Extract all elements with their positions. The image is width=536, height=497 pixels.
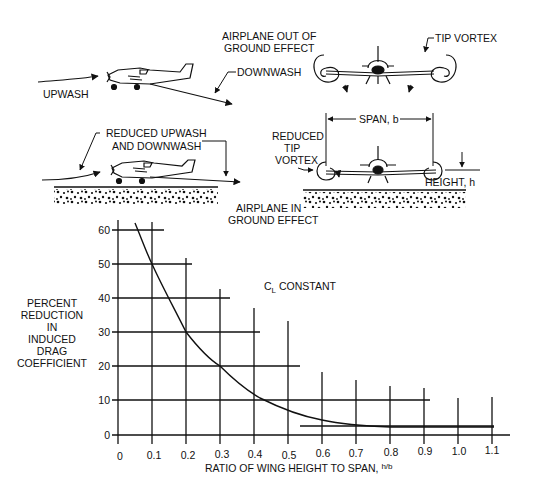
svg-text:0.3: 0.3 xyxy=(215,448,230,460)
reduced-leader-right xyxy=(202,141,226,176)
airplane-front-icon xyxy=(314,46,456,92)
svg-text:0.8: 0.8 xyxy=(384,446,399,458)
reduced-leader-left xyxy=(80,133,100,170)
svg-text:40: 40 xyxy=(98,292,110,304)
svg-text:PERCENT: PERCENT xyxy=(27,297,78,309)
reduced-tip-label-3: VORTEX xyxy=(275,154,318,166)
svg-text:0.1: 0.1 xyxy=(147,449,162,461)
drag-reduction-chart: PERCENT REDUCTION IN INDUCED DRAG COEFFI… xyxy=(17,220,510,474)
front-view-out-of-ground-effect: AIRPLANE OUT OF GROUND EFFECT TIP VORTEX xyxy=(222,30,497,92)
ground-gravel-left xyxy=(54,189,218,205)
reduced-upwash-label-2: AND DOWNWASH xyxy=(112,140,201,152)
ground-gravel-right xyxy=(303,192,466,208)
reduced-upwash-label-1: REDUCED UPWASH xyxy=(106,127,207,139)
in-ground-effect-title-1: AIRPLANE IN xyxy=(236,202,301,214)
svg-text:1.0: 1.0 xyxy=(452,445,467,457)
side-view-in-ground-effect: REDUCED UPWASH AND DOWNWASH xyxy=(42,127,240,205)
cl-constant-annotation: CL CONSTANT xyxy=(264,280,337,295)
span-label: SPAN, b xyxy=(359,113,399,125)
height-label: HEIGHT, h xyxy=(425,176,475,188)
svg-text:0.5: 0.5 xyxy=(282,449,297,461)
reduced-downwash-arrow xyxy=(150,177,240,182)
svg-text:0: 0 xyxy=(117,450,123,462)
x-tick-labels: 0 0.1 0.2 0.3 0.4 0.5 0.6 0.7 0.8 0.9 1.… xyxy=(117,444,499,462)
upwash-arrow xyxy=(38,76,98,82)
svg-text:0.9: 0.9 xyxy=(418,445,433,457)
svg-text:REDUCTION: REDUCTION xyxy=(21,309,83,321)
svg-text:10: 10 xyxy=(98,394,110,406)
downwash-arrow xyxy=(150,84,232,104)
svg-text:COEFFICIENT: COEFFICIENT xyxy=(17,357,88,369)
drag-reduction-curve xyxy=(135,223,494,427)
downwash-label: DOWNWASH xyxy=(237,66,301,78)
svg-text:0.6: 0.6 xyxy=(316,447,331,459)
reduced-upwash-arrow xyxy=(42,172,100,180)
y-tick-labels: 0 10 20 30 40 50 60 xyxy=(98,224,110,441)
svg-text:DRAG: DRAG xyxy=(37,345,67,357)
svg-text:INDUCED: INDUCED xyxy=(28,333,76,345)
svg-text:0.4: 0.4 xyxy=(248,448,263,460)
svg-text:20: 20 xyxy=(98,360,110,372)
ground-effect-figure: UPWASH DOWNWASH AIRPLANE OUT OF GROUND E… xyxy=(0,0,536,497)
grid-horizontal xyxy=(112,230,510,435)
downwash-leader xyxy=(215,72,236,93)
x-axis-label: RATIO OF WING HEIGHT TO SPAN, h/b xyxy=(205,462,393,474)
svg-text:0.7: 0.7 xyxy=(349,447,364,459)
y-axis-label: PERCENT REDUCTION IN INDUCED DRAG COEFFI… xyxy=(17,297,88,369)
svg-text:30: 30 xyxy=(98,326,110,338)
tip-vortex-label: TIP VORTEX xyxy=(435,32,497,44)
out-of-ground-effect-title-1: AIRPLANE OUT OF xyxy=(222,30,316,42)
side-view-out-of-ground-effect: UPWASH DOWNWASH xyxy=(38,64,301,104)
out-of-ground-effect-title-2: GROUND EFFECT xyxy=(224,42,315,54)
in-ground-effect-title-2: GROUND EFFECT xyxy=(228,214,319,226)
svg-text:1.1: 1.1 xyxy=(485,444,500,456)
svg-text:IN: IN xyxy=(47,321,58,333)
reduced-tip-label-2: TIP xyxy=(284,142,300,154)
svg-text:60: 60 xyxy=(98,224,110,236)
svg-text:50: 50 xyxy=(98,258,110,270)
front-view-in-ground-effect: SPAN, b REDUCED TIP VORTEX HEIGHT, h AIR… xyxy=(228,113,480,226)
tip-vortex-leader xyxy=(425,38,434,52)
upwash-label: UPWASH xyxy=(43,88,89,100)
svg-text:0.2: 0.2 xyxy=(181,449,196,461)
airplane-side-ground-icon xyxy=(111,160,195,184)
reduced-tip-label-1: REDUCED xyxy=(272,130,324,142)
svg-text:0: 0 xyxy=(104,429,110,441)
airplane-side-icon xyxy=(107,64,193,90)
airplane-front-ground-icon xyxy=(317,146,442,183)
